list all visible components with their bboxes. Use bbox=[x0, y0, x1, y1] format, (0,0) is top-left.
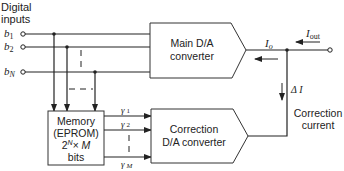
gamma-label-M: γM bbox=[121, 159, 134, 170]
delta-i-label: Δ I bbox=[290, 84, 303, 95]
correction-feed-line bbox=[248, 50, 287, 136]
main-dac-label-line2: converter bbox=[170, 50, 214, 62]
correction-dac-label-line1: Correction bbox=[170, 123, 219, 135]
main-dac-label-line1: Main D/A bbox=[170, 37, 213, 49]
memory-label-line3: 2N× M bbox=[62, 139, 91, 151]
correction-dac-label-line2: D/A converter bbox=[162, 136, 226, 148]
bit-label-bN: bN bbox=[4, 65, 16, 79]
dac-correction-diagram: Digital inputs b1 b2 bN Main D/A convert… bbox=[0, 0, 344, 171]
gamma-label-1: γ1 bbox=[121, 105, 131, 115]
gamma-label-2: γ2 bbox=[121, 119, 131, 129]
bit-label-b1: b1 bbox=[4, 27, 14, 41]
svg-text:bN: bN bbox=[4, 65, 16, 79]
inputs-heading-line2: inputs bbox=[1, 13, 31, 25]
memory-label-line1: Memory bbox=[57, 115, 96, 127]
iout-label: Iout bbox=[305, 27, 321, 41]
inputs-heading-line1: Digital bbox=[1, 1, 32, 13]
svg-text:b2: b2 bbox=[4, 40, 14, 54]
memory-label-line2: (EPROM) bbox=[53, 127, 99, 139]
bit-label-b2: b2 bbox=[4, 40, 14, 54]
correction-current-line2: current bbox=[302, 119, 335, 131]
terminal-bN bbox=[21, 70, 25, 74]
io-label: Io bbox=[264, 37, 273, 51]
terminal-b1 bbox=[21, 32, 25, 36]
svg-text:b1: b1 bbox=[4, 27, 14, 41]
correction-current-line1: Correction bbox=[294, 107, 343, 119]
terminal-b2 bbox=[21, 45, 25, 49]
memory-label-line4: bits bbox=[68, 151, 84, 163]
terminal-out bbox=[328, 48, 332, 52]
